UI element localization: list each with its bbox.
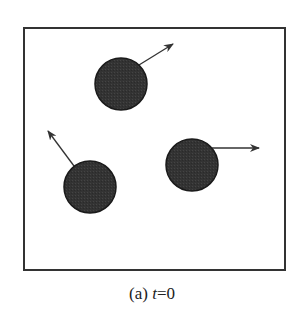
particle-circle [64, 161, 116, 213]
particle-right [166, 139, 259, 191]
velocity-arrow-icon [139, 44, 173, 65]
caption-label: (a) [129, 284, 148, 303]
velocity-arrow-icon [48, 131, 74, 166]
particle-top [95, 44, 173, 110]
particle-bottom-left [48, 131, 116, 213]
particle-diagram [0, 0, 304, 329]
container-box [24, 28, 285, 270]
particle-circle [166, 139, 218, 191]
particle-circle [95, 58, 147, 110]
particles-group [48, 44, 259, 213]
caption-value: =0 [157, 284, 175, 303]
figure-caption: (a) t=0 [0, 284, 304, 304]
